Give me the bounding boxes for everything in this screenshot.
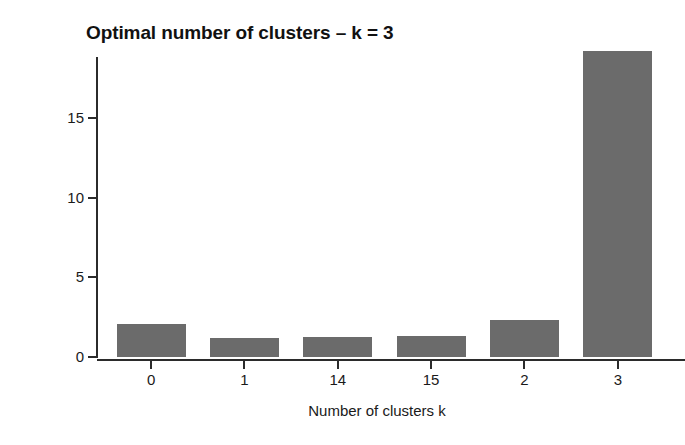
y-tick-label: 15 — [24, 110, 84, 125]
x-axis-title: Number of clusters k — [97, 402, 657, 419]
y-tick-label: 10 — [24, 190, 84, 205]
y-tick-mark — [88, 276, 96, 278]
y-tick-label-container: 10 — [18, 190, 84, 206]
x-tick-mark — [243, 361, 245, 369]
bar-chart-figure: Optimal number of clusters – k = 3 Frequ… — [0, 0, 685, 445]
x-tick-label: 0 — [121, 371, 181, 388]
page-title: Optimal number of clusters – k = 3 — [86, 22, 394, 44]
bar-2[interactable] — [490, 320, 559, 357]
bar-0[interactable] — [117, 324, 186, 357]
y-tick-mark — [88, 117, 96, 119]
x-tick-mark — [150, 361, 152, 369]
x-tick-mark — [523, 361, 525, 369]
x-tick-mark — [617, 361, 619, 369]
x-tick-label: 2 — [494, 371, 554, 388]
y-tick-label-container: 15 — [18, 110, 84, 126]
x-tick-label: 1 — [214, 371, 274, 388]
x-tick-mark — [337, 361, 339, 369]
x-axis-line — [97, 359, 685, 361]
y-tick-label-container: 5 — [18, 269, 84, 285]
x-tick-label: 3 — [588, 371, 648, 388]
y-tick-label-container: 0 — [18, 349, 84, 365]
y-axis-line — [96, 57, 98, 358]
x-tick-label: 15 — [401, 371, 461, 388]
y-tick-label: 0 — [24, 349, 84, 364]
y-tick-label: 5 — [24, 269, 84, 284]
bar-15[interactable] — [397, 336, 466, 357]
y-tick-mark — [88, 197, 96, 199]
x-tick-mark — [430, 361, 432, 369]
bar-1[interactable] — [210, 338, 279, 357]
bar-14[interactable] — [303, 337, 372, 357]
x-tick-label: 14 — [308, 371, 368, 388]
bar-3[interactable] — [583, 51, 652, 357]
y-tick-mark — [88, 356, 96, 358]
